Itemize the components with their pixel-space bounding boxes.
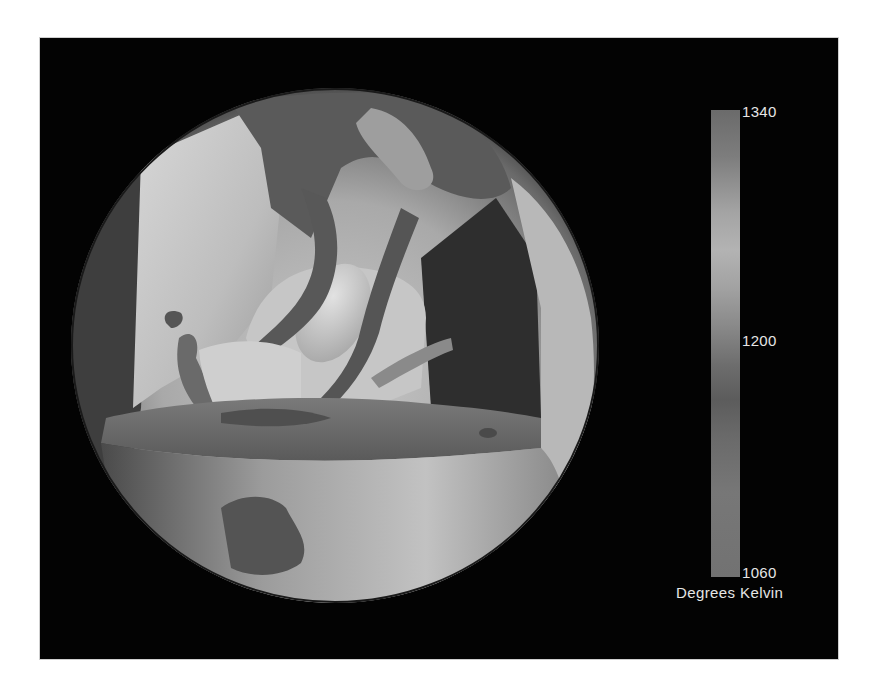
- figure-frame: 1340 1200 1060 Degrees Kelvin: [40, 38, 838, 659]
- small-right-blob: [479, 428, 497, 438]
- temperature-colorbar: [711, 110, 740, 577]
- colorbar-min-label: 1060: [742, 565, 777, 580]
- colorbar-mid-label: 1200: [742, 333, 777, 348]
- colorbar-unit-label: Degrees Kelvin: [676, 585, 783, 600]
- convection-sphere-render: [71, 88, 599, 603]
- lower-shell-surface: [101, 443, 565, 603]
- colorbar-max-label: 1340: [742, 104, 777, 119]
